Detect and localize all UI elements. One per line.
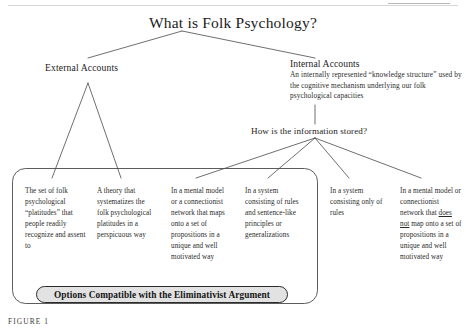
edge-how-to-leaf5 bbox=[315, 138, 421, 178]
node-how-is-information-stored: How is the information stored? bbox=[251, 126, 367, 137]
leaf-node-rules-only: In a system consisting only of rules bbox=[330, 186, 388, 219]
leaf-node-mental-model-does-not-map: In a mental model or connectionist netwo… bbox=[400, 186, 462, 263]
edge-how-to-leaf2 bbox=[196, 138, 315, 178]
tree-connector-lines bbox=[0, 0, 466, 333]
edge-external-to-leaf1 bbox=[88, 83, 121, 178]
node-external-accounts: External Accounts bbox=[45, 62, 118, 73]
edge-how-to-leaf3 bbox=[268, 138, 315, 178]
node-internal-accounts-label: Internal Accounts bbox=[290, 58, 466, 69]
figure-title: What is Folk Psychology? bbox=[0, 14, 466, 32]
edge-external-to-leaf0 bbox=[52, 83, 88, 178]
leaf-node-mental-model-maps: In a mental model or a connectionist net… bbox=[171, 186, 231, 263]
leaf-node-rules-and-sentences: In a system consisting of rules and sent… bbox=[245, 186, 305, 241]
edge-root-to-internal bbox=[182, 31, 315, 58]
eliminativist-options-label: Options Compatible with the Eliminativis… bbox=[36, 286, 288, 303]
figure-canvas: What is Folk Psychology? External Accoun… bbox=[0, 0, 466, 333]
node-internal-accounts: Internal Accounts An internally represen… bbox=[290, 58, 466, 102]
edge-root-to-external bbox=[88, 31, 182, 58]
leaf-node-folk-platitudes: The set of folk psychological “platitude… bbox=[25, 186, 87, 252]
leaf-5-text-after: map onto a set of propositions in a uniq… bbox=[400, 220, 462, 261]
node-internal-accounts-description: An internally represented “knowledge str… bbox=[290, 70, 466, 102]
figure-caption: FIGURE 1 bbox=[8, 317, 49, 326]
leaf-node-theory-systematizes: A theory that systematizes the folk psyc… bbox=[97, 186, 155, 241]
